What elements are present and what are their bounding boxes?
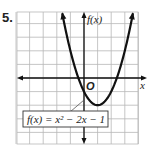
origin-label: O [86, 80, 95, 92]
equation-label: f(x) = x² − 2x − 1 [27, 113, 105, 126]
x-axis-label: x [139, 79, 145, 91]
function-graph: f(x) x O f(x) = x² − 2x − 1 [0, 0, 148, 147]
y-axis-label: f(x) [87, 13, 103, 26]
label-leader-line [70, 100, 84, 112]
